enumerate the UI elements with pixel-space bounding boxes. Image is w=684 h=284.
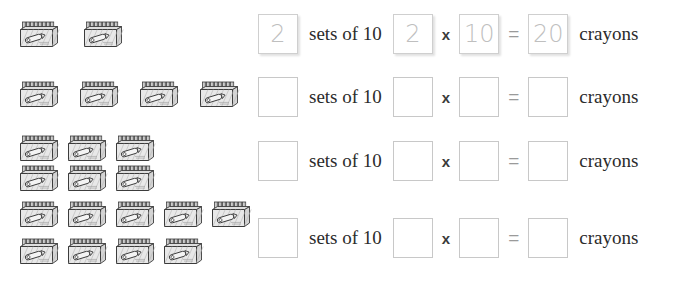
crayon-box-icon bbox=[66, 164, 108, 194]
factor-b-box[interactable] bbox=[459, 141, 499, 181]
crayon-box-icon bbox=[66, 134, 108, 164]
crayon-box-icon bbox=[198, 80, 240, 110]
factor-b-box[interactable] bbox=[459, 218, 499, 258]
crayon-box-icon bbox=[114, 200, 156, 230]
crayon-box-icon bbox=[18, 80, 60, 110]
factor-b-box[interactable] bbox=[459, 77, 499, 117]
product-box[interactable]: 20 bbox=[528, 14, 568, 54]
crayon-box-icon bbox=[18, 200, 60, 230]
crayons-label: crayons bbox=[579, 23, 638, 45]
sets-of-label: sets of 10 bbox=[309, 227, 382, 249]
crayon-box-line bbox=[18, 200, 258, 230]
crayon-box-line bbox=[18, 237, 210, 267]
product-box[interactable] bbox=[528, 141, 568, 181]
sets-answer-box[interactable] bbox=[258, 141, 298, 181]
equals-operator: = bbox=[508, 86, 519, 108]
sets-answer-box[interactable]: 2 bbox=[258, 14, 298, 54]
crayon-box-icon bbox=[114, 164, 156, 194]
sets-of-label: sets of 10 bbox=[309, 23, 382, 45]
worksheet-sheet: 2 sets of 10 2 x 10 = 20 crayons sets bbox=[0, 0, 684, 284]
factor-a-box[interactable] bbox=[393, 77, 433, 117]
crayon-box-icon bbox=[162, 200, 204, 230]
crayon-box-line bbox=[18, 20, 146, 50]
multiply-operator: x bbox=[442, 230, 450, 247]
equation-group: sets of 10 x = crayons bbox=[258, 192, 638, 284]
multiply-operator: x bbox=[442, 89, 450, 106]
sets-answer-value: 2 bbox=[270, 22, 285, 46]
crayon-box-icon bbox=[210, 200, 252, 230]
product-box[interactable] bbox=[528, 218, 568, 258]
crayon-box-line bbox=[18, 80, 258, 110]
factor-b-value: 10 bbox=[464, 22, 495, 46]
crayons-label: crayons bbox=[579, 150, 638, 172]
equals-operator: = bbox=[508, 227, 519, 249]
crayon-box-icon bbox=[66, 200, 108, 230]
crayon-box-icon bbox=[18, 20, 60, 50]
crayon-box-icon bbox=[18, 164, 60, 194]
crayons-label: crayons bbox=[579, 86, 638, 108]
crayon-box-icon bbox=[66, 237, 108, 267]
crayon-box-icon bbox=[114, 134, 156, 164]
factor-a-box[interactable] bbox=[393, 141, 433, 181]
equation-group: sets of 10 x = crayons bbox=[258, 66, 638, 128]
worksheet-row: sets of 10 x = crayons bbox=[0, 192, 684, 284]
equals-operator: = bbox=[508, 150, 519, 172]
product-value: 20 bbox=[533, 22, 564, 46]
worksheet-row: sets of 10 x = crayons bbox=[0, 66, 684, 128]
factor-a-box[interactable] bbox=[393, 218, 433, 258]
factor-b-box[interactable]: 10 bbox=[459, 14, 499, 54]
sets-answer-box[interactable] bbox=[258, 77, 298, 117]
crayon-box-icon bbox=[18, 134, 60, 164]
worksheet-row: 2 sets of 10 2 x 10 = 20 crayons bbox=[0, 0, 684, 68]
sets-of-label: sets of 10 bbox=[309, 150, 382, 172]
crayon-box-icon bbox=[18, 237, 60, 267]
crayon-box-group bbox=[0, 126, 258, 196]
crayon-box-line bbox=[18, 134, 162, 164]
sets-answer-box[interactable] bbox=[258, 218, 298, 258]
crayon-box-group bbox=[0, 192, 258, 284]
equation-group: sets of 10 x = crayons bbox=[258, 126, 638, 196]
crayon-box-icon bbox=[138, 80, 180, 110]
crayon-box-line bbox=[18, 164, 162, 194]
factor-a-box[interactable]: 2 bbox=[393, 14, 433, 54]
crayon-box-icon bbox=[162, 237, 204, 267]
crayon-box-icon bbox=[114, 237, 156, 267]
crayon-box-group bbox=[0, 0, 258, 68]
crayon-box-icon bbox=[82, 20, 124, 50]
equation-group: 2 sets of 10 2 x 10 = 20 crayons bbox=[258, 0, 638, 68]
multiply-operator: x bbox=[442, 26, 450, 43]
crayon-box-group bbox=[0, 66, 258, 128]
multiply-operator: x bbox=[442, 153, 450, 170]
factor-a-value: 2 bbox=[405, 22, 420, 46]
product-box[interactable] bbox=[528, 77, 568, 117]
sets-of-label: sets of 10 bbox=[309, 86, 382, 108]
crayons-label: crayons bbox=[579, 227, 638, 249]
equals-operator: = bbox=[508, 23, 519, 45]
worksheet-row: sets of 10 x = crayons bbox=[0, 126, 684, 196]
crayon-box-icon bbox=[78, 80, 120, 110]
